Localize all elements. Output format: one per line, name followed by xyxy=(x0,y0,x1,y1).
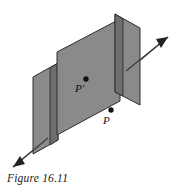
label-p-prime: P' xyxy=(74,82,85,94)
arrowhead-lower-left-icon xyxy=(13,156,25,167)
point-marker-p xyxy=(108,107,113,112)
arrowhead-upper-right-icon xyxy=(156,37,168,48)
point-marker-p-prime xyxy=(83,76,88,81)
main-plane-face xyxy=(57,19,120,135)
geometry-diagram: P' P xyxy=(0,0,178,193)
right-plane-edge-strip xyxy=(115,14,123,96)
figure-caption: Figure 16.11 xyxy=(7,172,68,184)
figure-container: P' P Figure 16.11 xyxy=(0,0,178,193)
label-p: P xyxy=(102,114,110,126)
